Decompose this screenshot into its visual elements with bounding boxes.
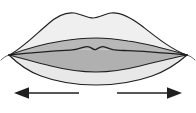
figure-root [0,0,196,113]
lips-lateral-stretch-diagram [0,0,196,113]
